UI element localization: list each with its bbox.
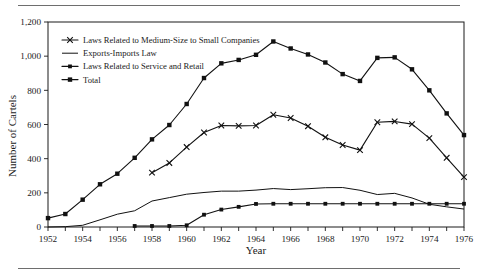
- legend-item[interactable]: Exports-Imports Law: [62, 48, 158, 58]
- data-point-marker: [410, 67, 414, 71]
- data-point-marker: [46, 216, 50, 220]
- data-point-marker: [237, 205, 241, 209]
- y-axis-tick-label: 600: [27, 120, 41, 130]
- x-axis-tick-label: 1972: [385, 234, 404, 244]
- data-point-marker: [340, 72, 344, 76]
- series-polyline: [48, 188, 464, 227]
- data-point-marker: [462, 202, 466, 206]
- data-point-marker: [427, 88, 431, 92]
- data-point-marker: [358, 202, 362, 206]
- data-point-marker: [150, 137, 154, 141]
- data-point-marker: [271, 202, 275, 206]
- data-point-marker: [201, 130, 207, 136]
- data-point-marker: [445, 202, 449, 206]
- data-point-marker: [63, 212, 67, 216]
- data-point-marker: [219, 208, 223, 212]
- data-point-marker: [185, 223, 189, 227]
- chart-series-1: [149, 112, 467, 180]
- series-polyline: [135, 204, 464, 226]
- data-point-marker: [305, 123, 311, 129]
- legend-label: Laws Related to Service and Retail: [83, 61, 205, 71]
- data-point-marker: [357, 147, 363, 153]
- y-axis-tick-label: 400: [27, 154, 41, 164]
- data-point-marker: [219, 61, 223, 65]
- y-axis-tick-label: 1,200: [20, 17, 41, 27]
- data-point-marker: [98, 182, 102, 186]
- x-axis-tick-labels: 1952195419561958196019621964196619681970…: [39, 234, 474, 244]
- line-chart: 02004006008001,0001,200 1952195419561958…: [0, 8, 478, 260]
- data-point-marker: [167, 123, 171, 127]
- legend-item[interactable]: Laws Related to Service and Retail: [62, 61, 205, 71]
- data-point-marker: [288, 46, 292, 50]
- x-axis-tick-label: 1956: [108, 234, 127, 244]
- data-point-marker: [358, 79, 362, 83]
- x-axis-tick-label: 1962: [212, 234, 231, 244]
- y-axis-title: Number of Cartels: [6, 95, 18, 177]
- legend-label: Exports-Imports Law: [83, 48, 158, 58]
- data-point-marker: [375, 202, 379, 206]
- x-axis-tick-label: 1968: [316, 234, 335, 244]
- data-point-marker: [462, 133, 466, 137]
- data-point-marker: [323, 202, 327, 206]
- data-point-marker: [115, 172, 119, 176]
- data-point-marker: [323, 135, 329, 141]
- data-point-marker: [306, 202, 310, 206]
- x-axis-tick-label: 1954: [73, 234, 92, 244]
- x-axis-tick-label: 1958: [143, 234, 162, 244]
- x-axis-tick-label: 1960: [177, 234, 196, 244]
- data-point-marker: [254, 53, 258, 57]
- y-axis-tick-label: 800: [27, 86, 41, 96]
- legend-item[interactable]: Laws Related to Medium-Size to Small Com…: [62, 35, 260, 45]
- data-point-marker: [80, 197, 84, 201]
- data-point-marker: [410, 202, 414, 206]
- chart-series-2: [48, 188, 464, 227]
- data-point-marker: [202, 213, 206, 217]
- x-axis-tick-label: 1952: [39, 234, 58, 244]
- y-axis-tick-label: 0: [36, 222, 41, 232]
- legend-label: Laws Related to Medium-Size to Small Com…: [83, 35, 260, 45]
- data-point-marker: [341, 202, 345, 206]
- data-point-marker: [306, 52, 310, 56]
- data-point-marker: [340, 142, 346, 148]
- data-point-marker: [323, 60, 327, 64]
- figure-container: 02004006008001,0001,200 1952195419561958…: [0, 0, 478, 276]
- bottom-horizontal-rule: [18, 268, 460, 269]
- data-point-marker: [184, 144, 190, 150]
- y-axis-tick-labels: 02004006008001,0001,200: [20, 17, 41, 232]
- data-point-marker: [444, 111, 448, 115]
- data-point-marker: [375, 56, 379, 60]
- data-point-marker: [184, 102, 188, 106]
- series-polyline: [152, 115, 464, 177]
- data-point-marker: [202, 76, 206, 80]
- x-axis-tick-label: 1974: [420, 234, 439, 244]
- data-point-marker: [427, 135, 433, 141]
- data-point-marker: [167, 160, 173, 166]
- legend-item[interactable]: Total: [62, 75, 101, 85]
- y-axis-tick-label: 1,000: [20, 51, 41, 61]
- data-point-marker: [254, 202, 258, 206]
- x-axis-tick-label: 1976: [455, 234, 474, 244]
- top-horizontal-rule: [18, 5, 460, 6]
- data-point-marker: [236, 58, 240, 62]
- data-point-marker: [289, 202, 293, 206]
- x-axis-title: Year: [246, 244, 267, 256]
- chart-legend: Laws Related to Medium-Size to Small Com…: [62, 35, 260, 85]
- y-axis-tick-label: 200: [27, 188, 41, 198]
- data-point-marker: [393, 202, 397, 206]
- x-axis-tick-label: 1970: [351, 234, 370, 244]
- data-point-marker: [149, 170, 155, 176]
- x-axis-tick-label: 1966: [281, 234, 300, 244]
- data-point-marker: [444, 155, 450, 161]
- data-point-marker: [132, 156, 136, 160]
- data-point-marker: [133, 224, 137, 228]
- data-point-marker: [271, 39, 275, 43]
- legend-swatch-marker: [68, 77, 72, 81]
- data-point-marker: [167, 224, 171, 228]
- data-point-marker: [392, 55, 396, 59]
- data-point-marker: [427, 202, 431, 206]
- chart-series-3: [133, 202, 466, 228]
- data-point-marker: [150, 224, 154, 228]
- chart-plot-area: 02004006008001,0001,200 1952195419561958…: [0, 8, 478, 260]
- legend-swatch-marker: [68, 65, 72, 69]
- legend-label: Total: [83, 75, 101, 85]
